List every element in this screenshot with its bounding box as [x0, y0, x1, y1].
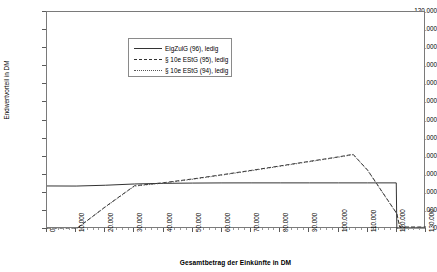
series-layer	[47, 12, 426, 229]
x-minor-tick	[332, 228, 333, 230]
x-minor-tick	[326, 228, 327, 230]
x-tick-mark	[75, 228, 76, 232]
x-minor-tick	[314, 228, 315, 230]
x-minor-tick	[390, 228, 391, 230]
legend-item-1: § 10e EStG (95), ledig	[133, 54, 227, 65]
x-minor-tick	[63, 228, 64, 230]
legend-line-solid-icon	[133, 45, 163, 52]
x-minor-tick	[378, 228, 379, 230]
x-tick-mark	[308, 228, 309, 232]
legend-line-dashed-icon	[133, 56, 163, 63]
x-minor-tick	[145, 228, 146, 230]
x-minor-tick	[128, 228, 129, 230]
x-minor-tick	[233, 228, 234, 230]
x-minor-tick	[69, 228, 70, 230]
x-tick-mark	[192, 228, 193, 232]
x-tick-mark	[396, 228, 397, 232]
x-minor-tick	[355, 228, 356, 230]
x-minor-tick	[52, 228, 53, 230]
x-minor-tick	[168, 228, 169, 230]
legend-item-0: EigZulG (96), ledig	[133, 43, 227, 54]
x-tick-mark	[338, 228, 339, 232]
x-tick-mark	[279, 228, 280, 232]
x-tick-mark	[425, 228, 426, 232]
x-minor-tick	[151, 228, 152, 230]
legend-item-2: § 10e EStG (94), ledig	[133, 65, 227, 76]
x-minor-tick	[320, 228, 321, 230]
legend-label-0: EigZulG (96), ledig	[163, 45, 218, 53]
x-minor-tick	[256, 228, 257, 230]
x-minor-tick	[384, 228, 385, 230]
chart-legend: EigZulG (96), ledig § 10e EStG (95), led…	[128, 38, 232, 77]
x-minor-tick	[402, 228, 403, 230]
x-tick-mark	[221, 228, 222, 232]
x-minor-tick	[349, 228, 350, 230]
x-minor-tick	[238, 228, 239, 230]
x-minor-tick	[93, 228, 94, 230]
y-axis-title: Endwertvorteil in DM	[3, 35, 11, 145]
x-minor-tick	[244, 228, 245, 230]
x-minor-tick	[343, 228, 344, 230]
x-tick-mark	[367, 228, 368, 232]
x-minor-tick	[180, 228, 181, 230]
x-tick-mark	[46, 228, 47, 232]
x-minor-tick	[157, 228, 158, 230]
x-tick-label: 130.000	[428, 209, 435, 232]
legend-label-1: § 10e EStG (95), ledig	[163, 56, 228, 64]
x-minor-tick	[87, 228, 88, 230]
x-minor-tick	[98, 228, 99, 230]
plot-area	[46, 11, 425, 228]
x-minor-tick	[268, 228, 269, 230]
legend-label-2: § 10e EStG (94), ledig	[163, 67, 228, 75]
x-minor-tick	[297, 228, 298, 230]
chart-container: Endwertvorteil in DM 010.00020.00030.000…	[0, 0, 437, 272]
x-tick-mark	[133, 228, 134, 232]
x-minor-tick	[419, 228, 420, 230]
x-minor-tick	[215, 228, 216, 230]
x-minor-tick	[174, 228, 175, 230]
x-minor-tick	[203, 228, 204, 230]
x-minor-tick	[361, 228, 362, 230]
x-minor-tick	[122, 228, 123, 230]
x-minor-tick	[58, 228, 59, 230]
x-minor-tick	[110, 228, 111, 230]
x-minor-tick	[373, 228, 374, 230]
x-minor-tick	[186, 228, 187, 230]
x-minor-tick	[227, 228, 228, 230]
x-minor-tick	[408, 228, 409, 230]
x-minor-tick	[303, 228, 304, 230]
x-minor-tick	[81, 228, 82, 230]
x-minor-tick	[139, 228, 140, 230]
x-minor-tick	[262, 228, 263, 230]
x-minor-tick	[116, 228, 117, 230]
legend-line-dotted-icon	[133, 67, 163, 74]
x-minor-tick	[291, 228, 292, 230]
x-minor-tick	[198, 228, 199, 230]
x-tick-mark	[250, 228, 251, 232]
x-minor-tick	[285, 228, 286, 230]
x-minor-tick	[413, 228, 414, 230]
x-tick-mark	[163, 228, 164, 232]
x-minor-tick	[209, 228, 210, 230]
x-axis-title: Gesamtbetrag der Einkünfte in DM	[46, 259, 425, 266]
x-minor-tick	[273, 228, 274, 230]
x-tick-mark	[104, 228, 105, 232]
